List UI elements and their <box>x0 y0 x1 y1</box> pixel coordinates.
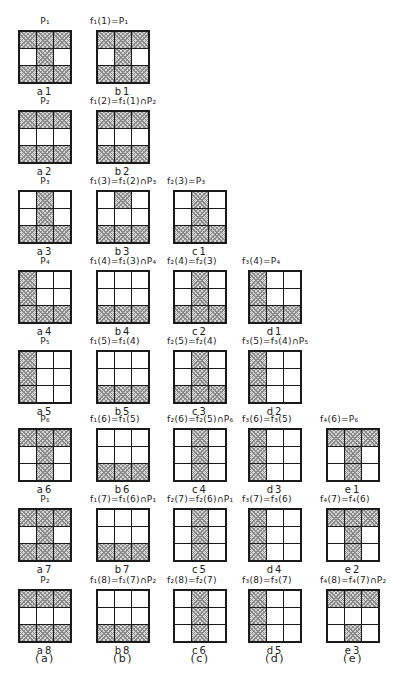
grid-cell-shaded <box>345 430 361 446</box>
grid-cell-shaded <box>20 625 36 641</box>
grid-cell-shaded <box>250 527 266 543</box>
column-footer-label-a: (a) <box>35 652 55 665</box>
grid-cell-shaded <box>192 369 208 385</box>
grid-cell-empty <box>20 527 36 543</box>
panel-b2: f₁(2)=f₁(1)∩P₂b2 <box>96 110 150 164</box>
grid-cell-empty <box>284 386 300 402</box>
grid-cell-empty <box>267 608 283 624</box>
grid-cell-empty <box>175 544 191 560</box>
panel-label: a7 <box>18 564 72 575</box>
panel-title: f₂(3)=P₃ <box>167 176 206 186</box>
panel-title: P₁ <box>18 494 72 504</box>
grid-cell-empty <box>175 192 191 208</box>
grid-cell-empty <box>175 608 191 624</box>
grid-cell-shaded <box>37 447 53 463</box>
grid-cell-empty <box>37 289 53 305</box>
panel-a4: P₄a4 <box>18 270 72 324</box>
grid-cell-empty <box>132 369 148 385</box>
grid-cell-empty <box>284 591 300 607</box>
grid-cell-shaded <box>37 527 53 543</box>
grid-cell-empty <box>362 464 378 480</box>
panel-title: f₃(4)=P₄ <box>242 256 281 266</box>
grid-cell-empty <box>267 544 283 560</box>
grid-cell-empty <box>115 352 131 368</box>
grid-cell-empty <box>209 352 225 368</box>
grid-cell-shaded <box>54 510 70 526</box>
grid-cell-shaded <box>37 544 53 560</box>
grid-cell-shaded <box>54 544 70 560</box>
grid-cell-empty <box>175 464 191 480</box>
panel-title: P₆ <box>18 414 72 424</box>
panel-title: f₃(6)=f₃(5) <box>242 414 292 424</box>
panel-d1: f₃(4)=P₄d1 <box>248 270 302 324</box>
grid-cell-shaded <box>54 591 70 607</box>
grid-cell-shaded <box>192 289 208 305</box>
grid-cell-empty <box>209 369 225 385</box>
panel-e3: f₄(8)=f₄(7)∩P₂e3 <box>326 589 380 643</box>
grid-cell-empty <box>115 527 131 543</box>
pattern-grid <box>18 270 72 324</box>
grid-cell-empty <box>284 527 300 543</box>
grid-cell-shaded <box>115 112 131 128</box>
grid-cell-shaded <box>98 544 114 560</box>
grid-cell-shaded <box>132 32 148 48</box>
grid-cell-shaded <box>209 226 225 242</box>
pattern-grid <box>173 190 227 244</box>
pattern-grid <box>96 428 150 482</box>
grid-cell-empty <box>20 464 36 480</box>
grid-cell-empty <box>132 510 148 526</box>
panel-a5: P₅a5 <box>18 350 72 404</box>
grid-cell-empty <box>98 591 114 607</box>
grid-cell-shaded <box>37 306 53 322</box>
pattern-grid <box>173 428 227 482</box>
grid-cell-empty <box>115 447 131 463</box>
grid-cell-empty <box>362 625 378 641</box>
grid-cell-empty <box>54 289 70 305</box>
grid-cell-empty <box>362 608 378 624</box>
grid-cell-shaded <box>250 510 266 526</box>
grid-cell-empty <box>267 447 283 463</box>
pattern-grid <box>326 508 380 562</box>
grid-cell-empty <box>328 527 344 543</box>
column-footer-label-e: (e) <box>343 652 363 665</box>
grid-cell-empty <box>98 608 114 624</box>
panel-title: f₃(7)=f₃(6) <box>242 494 292 504</box>
panel-a8: P₂a8 <box>18 589 72 643</box>
grid-cell-empty <box>115 209 131 225</box>
column-footer-label-d: (d) <box>265 652 285 665</box>
grid-cell-empty <box>328 464 344 480</box>
pattern-grid <box>18 428 72 482</box>
grid-cell-shaded <box>328 430 344 446</box>
grid-cell-empty <box>37 129 53 145</box>
grid-cell-empty <box>284 430 300 446</box>
pattern-grid <box>326 589 380 643</box>
grid-cell-shaded <box>20 306 36 322</box>
grid-cell-shaded <box>250 544 266 560</box>
panel-title: f₁(2)=f₁(1)∩P₂ <box>90 96 156 106</box>
grid-cell-shaded <box>250 447 266 463</box>
grid-cell-empty <box>98 430 114 446</box>
grid-cell-empty <box>284 352 300 368</box>
grid-cell-empty <box>98 447 114 463</box>
grid-cell-shaded <box>54 146 70 162</box>
pattern-grid <box>96 110 150 164</box>
grid-cell-shaded <box>20 272 36 288</box>
grid-cell-shaded <box>54 306 70 322</box>
grid-cell-empty <box>98 272 114 288</box>
grid-cell-shaded <box>132 146 148 162</box>
grid-cell-empty <box>115 608 131 624</box>
grid-cell-empty <box>37 272 53 288</box>
grid-cell-shaded <box>20 66 36 82</box>
pattern-grid <box>96 270 150 324</box>
grid-cell-empty <box>54 209 70 225</box>
grid-cell-shaded <box>209 386 225 402</box>
grid-cell-shaded <box>192 226 208 242</box>
grid-cell-shaded <box>250 430 266 446</box>
grid-cell-shaded <box>175 306 191 322</box>
grid-cell-empty <box>284 544 300 560</box>
grid-cell-shaded <box>192 625 208 641</box>
grid-cell-shaded <box>345 464 361 480</box>
grid-cell-empty <box>132 129 148 145</box>
grid-cell-shaded <box>345 510 361 526</box>
grid-cell-empty <box>362 544 378 560</box>
